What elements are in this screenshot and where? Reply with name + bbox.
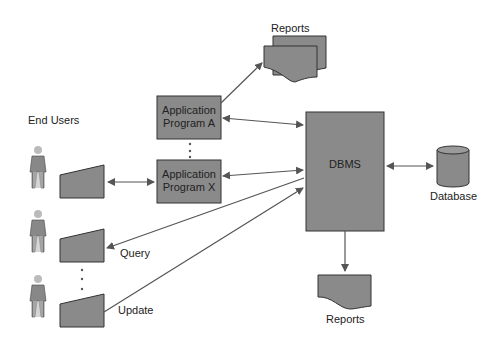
dbms-label: DBMS: [306, 158, 384, 171]
arrow-app-x-dbms: [223, 170, 303, 176]
database-label: Database: [430, 190, 477, 202]
arrow-app-a-dbms: [223, 118, 303, 125]
reports-top-icon: [264, 36, 326, 82]
person-icon: [30, 210, 46, 252]
terminal-icon: [60, 229, 104, 262]
app-program-x-line1: Application: [157, 168, 221, 181]
diagram-canvas: [0, 0, 496, 352]
app-program-x-line2: Program X: [157, 181, 221, 194]
app-program-a-label: Application Program A: [157, 104, 221, 130]
terminal-icon: [60, 165, 104, 198]
update-label: Update: [118, 304, 153, 316]
reports-bottom-label: Reports: [326, 313, 365, 325]
reports-bottom-icon: [318, 275, 371, 309]
end-users-label: End Users: [28, 114, 79, 126]
person-icon: [30, 275, 46, 317]
app-program-a-line1: Application: [157, 104, 221, 117]
person-icon: [30, 146, 46, 188]
dbms-box: [306, 112, 384, 231]
query-label: Query: [120, 247, 150, 259]
reports-top-label: Reports: [271, 22, 310, 34]
app-program-a-line2: Program A: [157, 117, 221, 130]
ellipsis-dots-users: [81, 269, 83, 290]
database-icon: [437, 146, 469, 187]
terminal-icon: [60, 294, 104, 327]
app-program-x-label: Application Program X: [157, 168, 221, 194]
arrow-app-a-to-reports: [221, 63, 262, 103]
ellipsis-dots-apps: [189, 143, 191, 158]
